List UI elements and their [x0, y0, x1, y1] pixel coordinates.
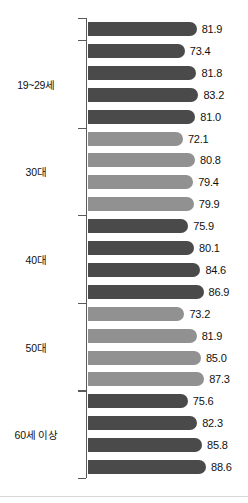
bar-chart: 전체81.91단계73.42단계81.83단계83.24단계81.01단계72.… [0, 0, 248, 503]
bar [88, 263, 200, 277]
bar [88, 175, 193, 189]
bar [88, 438, 202, 452]
bar [88, 241, 194, 255]
bar [88, 351, 201, 365]
bar-value-label: 75.6 [193, 390, 214, 412]
bar [88, 416, 197, 430]
bar [88, 394, 188, 408]
axis-tick [78, 40, 86, 41]
bar-value-label: 72.1 [188, 128, 209, 150]
bar-value-label: 79.4 [198, 171, 219, 193]
bar-value-label: 83.2 [203, 84, 224, 106]
bar [88, 66, 196, 80]
axis-tick [78, 390, 86, 391]
bar-value-label: 81.9 [202, 325, 223, 347]
bar [88, 460, 206, 474]
bar-value-label: 85.0 [206, 347, 227, 369]
bar [88, 307, 184, 321]
bottom-divider [0, 496, 248, 497]
axis-tick [78, 303, 86, 304]
age-group-label: 19~29세 [0, 77, 72, 92]
bar-value-label: 85.8 [207, 434, 228, 456]
bar-value-label: 79.9 [199, 193, 220, 215]
bar [88, 88, 198, 102]
bar-value-label: 81.8 [201, 62, 222, 84]
bar [88, 197, 194, 211]
age-group-label: 60세 이상 [0, 427, 72, 442]
bar-value-label: 81.9 [202, 18, 223, 40]
bar-value-label: 73.2 [189, 303, 210, 325]
axis-tick [78, 128, 86, 129]
bar-value-label: 86.9 [209, 281, 230, 303]
axis-tick [78, 215, 86, 216]
bar [88, 329, 197, 343]
bar [88, 44, 185, 58]
age-group-label: 30대 [0, 164, 72, 179]
bar-value-label: 80.1 [199, 237, 220, 259]
bar [88, 110, 195, 124]
bar [88, 153, 195, 167]
bar-value-label: 80.8 [200, 149, 221, 171]
bar [88, 22, 197, 36]
age-group-label: 50대 [0, 340, 72, 355]
bar-value-label: 88.6 [211, 456, 232, 478]
bar-value-label: 87.3 [209, 368, 230, 390]
bar-value-label: 73.4 [190, 40, 211, 62]
axis-tick [78, 478, 86, 479]
bar [88, 219, 188, 233]
bar [88, 132, 183, 146]
bar-value-label: 84.6 [205, 259, 226, 281]
bar [88, 372, 204, 386]
bar-value-label: 75.9 [193, 215, 214, 237]
bar-value-label: 81.0 [200, 106, 221, 128]
axis-tick [78, 18, 86, 19]
bar [88, 285, 204, 299]
bar-value-label: 82.3 [202, 412, 223, 434]
age-group-label: 40대 [0, 252, 72, 267]
